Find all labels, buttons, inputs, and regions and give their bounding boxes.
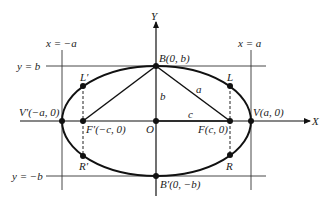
label-v-prime: V′(−a, 0): [19, 106, 60, 119]
x-axis-label: X: [311, 115, 320, 127]
label-f: F(c, 0): [197, 123, 228, 136]
ellipse-diagram: Y X x = −a x = a y = b y = −b B(0, b) B′…: [0, 0, 328, 206]
label-y-equals-b: y = b: [16, 60, 41, 72]
label-b: B(0, b): [159, 52, 190, 65]
label-l: L: [226, 71, 233, 83]
label-f-prime: F′(−c, 0): [85, 123, 126, 136]
label-l-prime: L′: [79, 71, 89, 83]
point-b-prime: [153, 173, 159, 179]
segment-f-prime-to-b: [83, 66, 156, 121]
point-v-prime: [59, 118, 65, 124]
label-y-equals-neg-b: y = −b: [11, 170, 43, 182]
label-r-prime: R′: [78, 160, 89, 172]
y-axis-label: Y: [151, 10, 159, 22]
label-r: R: [225, 160, 233, 172]
point-l-prime: [80, 83, 86, 89]
point-l: [227, 83, 233, 89]
segment-b-to-f: [156, 66, 230, 121]
label-segment-a: a: [196, 83, 202, 95]
label-v: V(a, 0): [253, 106, 284, 119]
label-segment-c: c: [188, 108, 193, 120]
label-x-equals-a: x = a: [237, 37, 262, 49]
point-v: [248, 118, 254, 124]
point-r-prime: [80, 153, 86, 159]
label-b-prime: B′(0, −b): [160, 178, 201, 191]
label-x-equals-neg-a: x = −a: [45, 37, 77, 49]
point-r: [227, 152, 233, 158]
label-segment-b: b: [160, 90, 166, 102]
label-o: O: [146, 123, 154, 135]
